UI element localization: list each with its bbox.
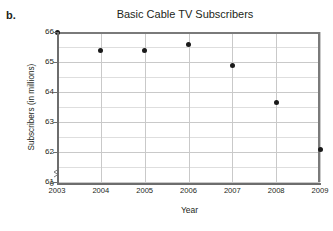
x-axis-spine bbox=[57, 183, 321, 185]
gridline-vertical bbox=[276, 32, 277, 182]
y-tick-mark bbox=[53, 62, 57, 63]
y-axis-spine bbox=[57, 32, 59, 182]
x-axis-label: Year bbox=[57, 206, 322, 215]
y-tick-label: 63 bbox=[34, 118, 54, 126]
plot-frame-right bbox=[318, 32, 320, 182]
data-point bbox=[98, 48, 103, 53]
gridline-vertical bbox=[232, 32, 233, 182]
y-tick-mark bbox=[53, 92, 57, 93]
plot-area bbox=[57, 32, 320, 182]
x-tick-label: 2004 bbox=[86, 187, 116, 195]
y-tick-label: 64 bbox=[34, 88, 54, 96]
y-tick-label: 65 bbox=[34, 58, 54, 66]
gridline-vertical bbox=[320, 32, 321, 182]
x-tick-label: 2003 bbox=[42, 187, 72, 195]
data-point bbox=[142, 48, 147, 53]
y-tick-mark bbox=[53, 182, 57, 183]
plot-frame-top bbox=[57, 32, 320, 34]
data-point bbox=[274, 100, 279, 105]
x-tick-label: 2007 bbox=[217, 187, 247, 195]
x-tick-label: 2006 bbox=[174, 187, 204, 195]
part-label: b. bbox=[6, 10, 16, 21]
y-tick-labels: 6665646362610 bbox=[32, 0, 54, 231]
y-tick-mark bbox=[53, 32, 57, 33]
data-point bbox=[186, 42, 191, 47]
x-tick-label: 2008 bbox=[261, 187, 291, 195]
y-tick-mark bbox=[53, 152, 57, 153]
gridline-vertical bbox=[145, 32, 146, 182]
y-tick-label: 66 bbox=[34, 28, 54, 36]
data-point bbox=[318, 147, 323, 152]
data-point bbox=[230, 63, 235, 68]
chart-title: Basic Cable TV Subscribers bbox=[60, 9, 310, 20]
y-tick-label: 62 bbox=[34, 148, 54, 156]
x-tick-label: 2009 bbox=[305, 187, 333, 195]
x-tick-label: 2005 bbox=[130, 187, 160, 195]
gridline-vertical bbox=[101, 32, 102, 182]
y-tick-mark bbox=[53, 122, 57, 123]
gridline-vertical bbox=[189, 32, 190, 182]
